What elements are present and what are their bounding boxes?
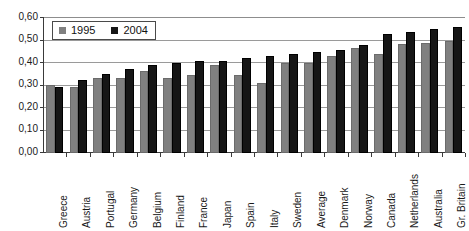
x-tick-mark: [442, 153, 443, 157]
bar-group: [163, 17, 180, 153]
x-tick-mark: [324, 153, 325, 157]
bar-2004: [406, 32, 415, 153]
bar-1995: [327, 56, 336, 153]
bar-2004: [195, 61, 204, 153]
x-tick-mark: [90, 153, 91, 157]
bar-1995: [46, 85, 55, 153]
bar-2004: [242, 58, 251, 153]
bar-2004: [219, 61, 228, 153]
x-tick-mark: [254, 153, 255, 157]
bar-group: [327, 17, 344, 153]
bar-group: [445, 17, 462, 153]
x-axis-label: Greece: [59, 195, 69, 228]
bar-2004: [266, 56, 275, 153]
bar-group: [281, 17, 298, 153]
bar-1995: [445, 41, 454, 153]
bar-1995: [281, 63, 290, 153]
black-square-swatch-icon: [111, 27, 118, 34]
bar-1995: [398, 44, 407, 153]
bar-group: [210, 17, 227, 153]
bar-group: [187, 17, 204, 153]
y-tick-label: 0,00: [19, 147, 38, 157]
y-tick-label: 0,40: [19, 57, 38, 67]
bar-2004: [102, 74, 111, 153]
x-axis-label: Gr. Britain: [457, 184, 467, 228]
x-axis-ticks: [43, 153, 465, 157]
x-axis-label: Italy: [270, 210, 280, 228]
y-tick-label: 0,30: [19, 79, 38, 89]
bar-chart: 0,60 0,50 0,40 0,30 0,20 0,10 0,00 Greec…: [0, 0, 469, 231]
x-tick-mark: [160, 153, 161, 157]
x-axis-labels: GreeceAustriaPortugalGermanyBelgiumFinla…: [43, 158, 465, 231]
bar-group: [398, 17, 415, 153]
bar-1995: [257, 83, 266, 153]
x-axis-label: Denmark: [340, 187, 350, 228]
bar-1995: [210, 65, 219, 153]
x-tick-mark: [418, 153, 419, 157]
bar-group: [421, 17, 438, 153]
x-tick-mark: [137, 153, 138, 157]
x-axis-label: Canada: [387, 193, 397, 228]
bar-2004: [313, 52, 322, 153]
x-tick-mark: [371, 153, 372, 157]
x-axis-label: Australia: [434, 189, 444, 228]
x-tick-mark: [277, 153, 278, 157]
x-tick-mark: [465, 153, 466, 157]
bar-1995: [421, 43, 430, 153]
legend-label: 1995: [71, 25, 95, 36]
bar-1995: [140, 71, 149, 153]
bar-2004: [125, 69, 134, 153]
bar-group: [351, 17, 368, 153]
bar-1995: [116, 78, 125, 153]
bar-2004: [78, 80, 87, 153]
chart-legend: 1995 2004: [52, 21, 156, 40]
gray-square-swatch-icon: [59, 27, 66, 34]
x-axis-label: Norway: [364, 194, 374, 228]
x-axis-label: Sweden: [293, 192, 303, 228]
legend-entry-2004: 2004: [111, 25, 147, 36]
bar-1995: [70, 87, 79, 153]
bar-1995: [234, 75, 243, 153]
x-axis-label: Austria: [82, 197, 92, 228]
bar-2004: [172, 63, 181, 153]
x-axis-label: Finland: [176, 195, 186, 228]
x-axis-label: Portugal: [106, 191, 116, 228]
x-axis-label: France: [199, 197, 209, 228]
bar-1995: [374, 54, 383, 153]
bar-2004: [289, 54, 298, 153]
x-tick-mark: [348, 153, 349, 157]
bar-group: [257, 17, 274, 153]
x-tick-mark: [184, 153, 185, 157]
x-tick-mark: [301, 153, 302, 157]
bar-1995: [304, 63, 313, 153]
x-tick-mark: [66, 153, 67, 157]
y-tick-label: 0,20: [19, 102, 38, 112]
bar-2004: [430, 29, 439, 153]
bar-2004: [55, 87, 64, 153]
y-tick-label: 0,60: [19, 12, 38, 22]
bar-1995: [93, 78, 102, 153]
x-axis-label: Average: [317, 191, 327, 228]
y-tick-label: 0,10: [19, 124, 38, 134]
bar-2004: [336, 50, 345, 153]
x-axis-label: Netherlands: [410, 174, 420, 228]
bar-2004: [383, 34, 392, 153]
x-axis-label: Belgium: [153, 192, 163, 228]
x-tick-mark: [395, 153, 396, 157]
bar-1995: [187, 75, 196, 153]
bar-group: [374, 17, 391, 153]
x-tick-mark: [207, 153, 208, 157]
x-axis-label: Germany: [129, 187, 139, 228]
bar-1995: [351, 48, 360, 153]
bar-2004: [453, 27, 462, 153]
bar-group: [234, 17, 251, 153]
bar-2004: [148, 65, 157, 153]
bar-2004: [359, 45, 368, 153]
x-tick-mark: [113, 153, 114, 157]
legend-label: 2004: [123, 25, 147, 36]
x-axis-label: Japan: [223, 201, 233, 228]
legend-entry-1995: 1995: [59, 25, 95, 36]
y-tick-label: 0,50: [19, 34, 38, 44]
x-axis-label: Spain: [246, 202, 256, 228]
bar-1995: [163, 78, 172, 153]
